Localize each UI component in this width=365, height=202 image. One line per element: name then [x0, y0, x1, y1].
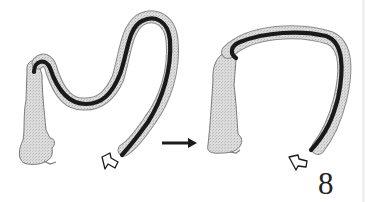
- colonoscope-straightened: [232, 33, 342, 150]
- panel-before: [19, 17, 172, 169]
- insertion-arrow-icon-before: [102, 153, 118, 169]
- figure-number: 8: [318, 168, 334, 199]
- right-arrow-icon: [162, 138, 197, 148]
- colon-before: [19, 17, 172, 165]
- insertion-arrow-icon-after: [289, 155, 307, 170]
- diagram-figure: 8: [0, 0, 365, 202]
- panel-after: [208, 32, 345, 170]
